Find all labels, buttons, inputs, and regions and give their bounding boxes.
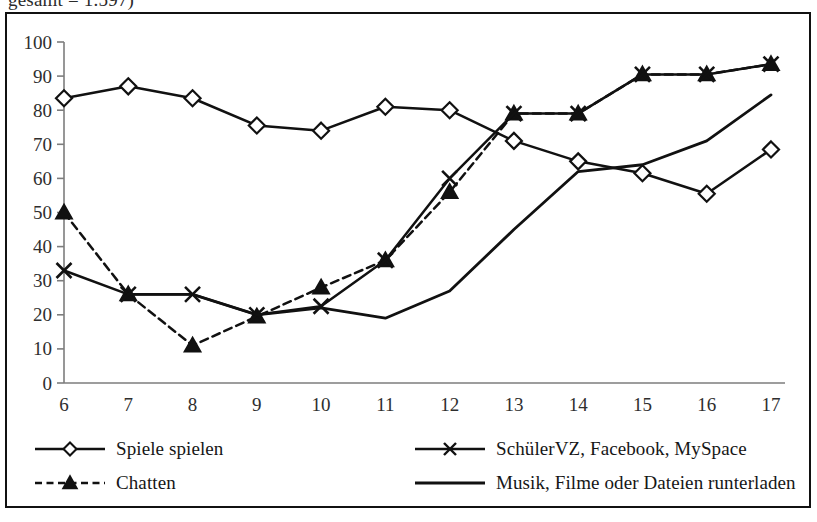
data-point-marker	[442, 102, 458, 118]
y-tick-label: 10	[33, 338, 52, 359]
legend-item-musik-filme[interactable]: Musik, Filme oder Dateien runterladen	[413, 466, 809, 500]
plot-area: 0102030405060708090100 67891011121314151…	[7, 14, 813, 434]
y-tick-label: 90	[33, 66, 52, 87]
series-line	[64, 64, 771, 315]
legend-sample-triangle-dashed	[33, 474, 107, 492]
series-1	[56, 78, 779, 201]
data-point-marker	[763, 141, 779, 157]
x-tick-label: 8	[188, 394, 198, 415]
y-tick-label: 60	[33, 168, 52, 189]
x-tick-label: 11	[376, 394, 394, 415]
legend-label-musik-filme: Musik, Filme oder Dateien runterladen	[496, 472, 796, 494]
data-point-marker	[56, 205, 72, 219]
legend-item-spiele-spielen[interactable]: Spiele spielen	[33, 432, 413, 466]
data-point-marker	[120, 78, 136, 94]
data-point-marker	[377, 99, 393, 115]
chart-legend: Spiele spielen Chatten SchülerVZ, Facebo…	[7, 432, 813, 506]
x-tick-label: 10	[312, 394, 331, 415]
y-tick-label: 20	[33, 304, 52, 325]
x-tick-label: 16	[697, 394, 716, 415]
data-point-marker	[249, 118, 265, 134]
y-tick-label: 0	[43, 373, 53, 394]
series-layer	[56, 56, 779, 351]
data-point-marker	[506, 133, 522, 149]
line-chart: 0102030405060708090100 67891011121314151…	[7, 14, 813, 434]
data-point-marker	[313, 123, 329, 139]
data-point-marker	[634, 165, 650, 181]
legend-item-schuelervz[interactable]: SchülerVZ, Facebook, MySpace	[413, 432, 809, 466]
y-tick-label: 50	[33, 202, 52, 223]
data-point-marker	[56, 90, 72, 106]
legend-column-left: Spiele spielen Chatten	[33, 432, 413, 500]
caption-strip: gesamt = 1.597)	[0, 0, 817, 12]
legend-label-spiele-spielen: Spiele spielen	[116, 438, 223, 460]
data-point-marker	[185, 337, 201, 351]
x-tick-label: 12	[440, 394, 459, 415]
x-tick-label: 6	[59, 394, 69, 415]
data-point-marker	[313, 280, 329, 294]
y-tick-label: 80	[33, 100, 52, 121]
y-tick-label: 70	[33, 134, 52, 155]
caption-text: gesamt = 1.597)	[8, 0, 134, 11]
legend-label-schuelervz: SchülerVZ, Facebook, MySpace	[496, 438, 747, 460]
data-point-marker	[185, 90, 201, 106]
y-tick-label: 40	[33, 236, 52, 257]
legend-label-chatten: Chatten	[116, 472, 176, 494]
series-line	[128, 95, 771, 318]
x-tick-label: 7	[124, 394, 134, 415]
figure-frame: 0102030405060708090100 67891011121314151…	[5, 12, 811, 508]
data-point-marker	[699, 186, 715, 202]
series-2	[56, 56, 779, 351]
legend-item-chatten[interactable]: Chatten	[33, 466, 413, 500]
data-point-marker	[570, 153, 586, 169]
x-tick-label: 13	[504, 394, 523, 415]
x-tick-label: 14	[569, 394, 589, 415]
y-tick-label: 30	[33, 270, 52, 291]
x-tick-label: 15	[633, 394, 652, 415]
y-axis: 0102030405060708090100	[24, 32, 65, 394]
y-tick-label: 100	[24, 32, 53, 53]
legend-sample-plain-line	[413, 474, 487, 492]
legend-column-right: SchülerVZ, Facebook, MySpace Musik, Film…	[413, 432, 809, 500]
x-tick-label: 9	[252, 394, 262, 415]
legend-sample-x-line	[413, 440, 487, 458]
x-tick-label: 17	[762, 394, 781, 415]
series-3	[57, 57, 779, 323]
legend-sample-diamond-line	[33, 440, 107, 458]
series-line	[64, 86, 771, 193]
series-4	[128, 95, 771, 318]
x-axis: 67891011121314151617	[59, 383, 785, 415]
